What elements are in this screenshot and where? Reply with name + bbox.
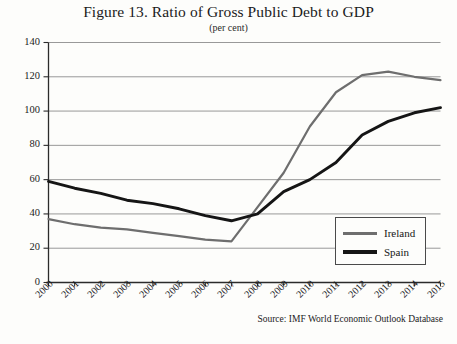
legend: Ireland Spain: [335, 217, 426, 265]
y-tick-marks: [44, 43, 49, 283]
y-tick-label: 40: [8, 207, 40, 218]
y-tick-label: 0: [8, 276, 40, 287]
data-series: [49, 72, 441, 242]
legend-item-ireland: Ireland: [343, 224, 415, 242]
y-tick-label: 80: [8, 138, 40, 149]
y-tick-label: 60: [8, 173, 40, 184]
source-note: Source: IMF World Economic Outlook Datab…: [257, 314, 443, 324]
y-tick-label: 20: [8, 241, 40, 252]
legend-label-spain: Spain: [384, 246, 409, 258]
y-tick-label: 100: [8, 104, 40, 115]
y-tick-label: 120: [8, 70, 40, 81]
legend-item-spain: Spain: [343, 243, 409, 261]
legend-swatch-spain-icon: [343, 250, 377, 254]
legend-swatch-ireland-icon: [343, 232, 377, 235]
y-tick-label: 140: [8, 36, 40, 47]
legend-label-ireland: Ireland: [384, 227, 415, 239]
figure-container: Figure 13. Ratio of Gross Public Debt to…: [0, 0, 457, 344]
